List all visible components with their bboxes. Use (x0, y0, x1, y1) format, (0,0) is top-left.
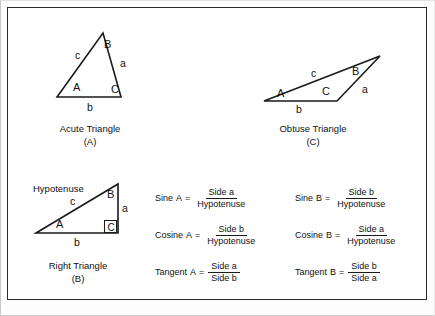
formula-sine-b-fraction: Side b Hypotenuse (334, 188, 388, 209)
obtuse-triangle-caption-key: (C) (258, 137, 368, 147)
formula-tangent-a-name: Tangent (155, 268, 187, 277)
right-triangle-caption-name: Right Triangle (26, 261, 130, 271)
formula-sine-b-equals: = (325, 194, 330, 203)
right-triangle-caption-key: (B) (26, 274, 130, 284)
formula-sine-a-numerator: Side a (206, 188, 238, 199)
formula-cosine-a-equals: = (195, 231, 200, 240)
right-vertex-label-A: A (56, 219, 63, 230)
acute-side-label-c: c (75, 50, 80, 61)
formula-tangent-a-fraction: Side a Side b (208, 262, 240, 283)
formula-cosine-a: Cosine A = Side b Hypotenuse (155, 225, 258, 246)
obtuse-vertex-label-A: A (277, 88, 284, 99)
obtuse-vertex-label-B: B (352, 66, 359, 77)
right-vertex-label-B: B (107, 189, 114, 200)
right-side-label-b: b (74, 237, 80, 248)
acute-side-label-b: b (87, 102, 93, 113)
formula-cosine-a-name: Cosine (155, 231, 183, 240)
obtuse-side-label-b: b (296, 104, 302, 115)
right-angle-marker: C (104, 220, 117, 233)
obtuse-side-label-c: c (311, 68, 316, 79)
formula-tangent-b-angle: B (330, 268, 336, 277)
formula-sine-a: Sine A = Side a Hypotenuse (155, 188, 248, 209)
right-side-label-c: c (70, 196, 75, 207)
formula-tangent-b: Tangent B = Side b Side a (295, 262, 380, 283)
formula-tangent-b-equals: = (339, 268, 344, 277)
formula-cosine-a-fraction: Side b Hypotenuse (204, 225, 258, 246)
formula-cosine-b-numerator: Side a (356, 225, 388, 236)
acute-triangle-caption-name: Acute Triangle (42, 124, 138, 134)
formula-sine-a-denominator: Hypotenuse (194, 199, 248, 209)
formula-sine-b: Sine B = Side b Hypotenuse (295, 188, 388, 209)
formula-sine-a-name: Sine (155, 194, 173, 203)
formula-tangent-b-numerator: Side b (348, 262, 380, 273)
formula-tangent-b-name: Tangent (295, 268, 327, 277)
obtuse-side-label-a: a (362, 84, 368, 95)
formula-cosine-b-name: Cosine (295, 231, 323, 240)
acute-vertex-label-C: C (111, 84, 119, 95)
obtuse-triangle-caption-name: Obtuse Triangle (258, 124, 368, 134)
acute-vertex-label-A: A (73, 82, 80, 93)
formula-tangent-b-denominator: Side a (348, 273, 380, 283)
formula-tangent-a: Tangent A = Side a Side b (155, 262, 240, 283)
formula-tangent-b-fraction: Side b Side a (348, 262, 380, 283)
formula-cosine-b-equals: = (335, 231, 340, 240)
trigonometry-figure: A B C c a b Acute Triangle (A) A B C c a… (0, 0, 435, 316)
formula-sine-b-numerator: Side b (346, 188, 378, 199)
formula-sine-b-angle: B (316, 194, 322, 203)
formula-cosine-b-fraction: Side a Hypotenuse (344, 225, 398, 246)
formula-sine-a-equals: = (185, 194, 190, 203)
formula-sine-a-angle: A (176, 194, 182, 203)
acute-vertex-label-B: B (104, 39, 111, 50)
formula-sine-a-fraction: Side a Hypotenuse (194, 188, 248, 209)
formula-sine-b-denominator: Hypotenuse (334, 199, 388, 209)
formula-cosine-a-angle: A (186, 231, 192, 240)
formula-cosine-b: Cosine B = Side a Hypotenuse (295, 225, 398, 246)
formula-tangent-a-angle: A (190, 268, 196, 277)
right-triangle-hypotenuse-label: Hypotenuse (33, 184, 84, 194)
right-vertex-label-C: C (108, 222, 115, 233)
right-side-label-a: a (122, 203, 128, 214)
obtuse-vertex-label-C: C (322, 86, 330, 97)
formula-cosine-b-angle: B (326, 231, 332, 240)
formula-sine-b-name: Sine (295, 194, 313, 203)
acute-side-label-a: a (120, 58, 126, 69)
formula-cosine-a-denominator: Hypotenuse (204, 236, 258, 246)
formula-cosine-b-denominator: Hypotenuse (344, 236, 398, 246)
formula-cosine-a-numerator: Side b (216, 225, 248, 236)
formula-tangent-a-denominator: Side b (208, 273, 240, 283)
formula-tangent-a-equals: = (199, 268, 204, 277)
formula-tangent-a-numerator: Side a (208, 262, 240, 273)
acute-triangle-caption-key: (A) (42, 137, 138, 147)
